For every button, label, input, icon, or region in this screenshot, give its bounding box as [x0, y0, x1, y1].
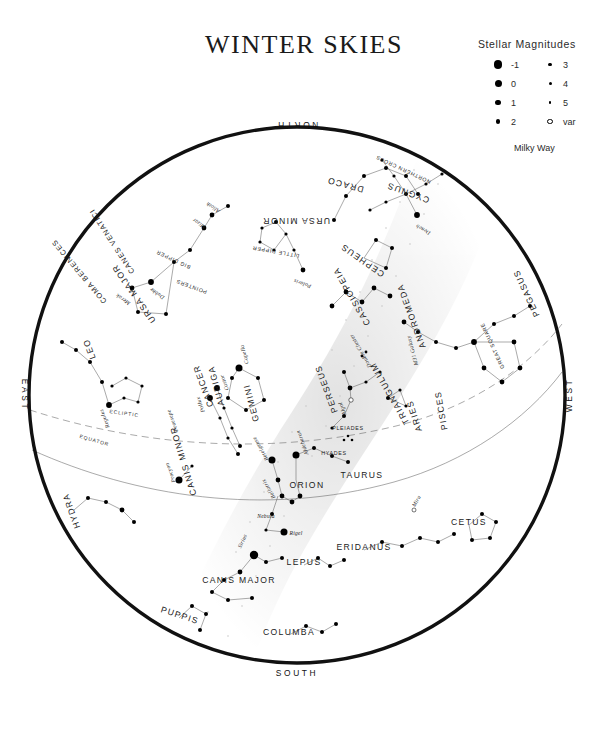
magnitude-dot-icon	[544, 82, 556, 85]
star-label: Capella	[239, 344, 250, 364]
constellation-label: LEPUS	[287, 557, 322, 567]
legend-item-mag-minus1: -1	[492, 59, 544, 70]
star-label: Alioth	[205, 201, 222, 215]
star-label: Rigel	[288, 530, 302, 536]
asterism-label: Nebula	[256, 513, 275, 519]
star-chart: NORTH SOUTH EAST WEST URSA MINOR URSA MA…	[14, 110, 580, 680]
legend-item-mag-1: 1	[492, 97, 544, 108]
magnitude-dot-icon	[492, 100, 504, 106]
legend-item-mag-0: 0	[492, 78, 544, 89]
compass-north: NORTH	[276, 120, 319, 130]
asterism-label: PLEIADES	[332, 425, 364, 431]
constellation-label: URSA MINOR	[262, 216, 330, 226]
constellation-label: TAURUS	[341, 470, 384, 480]
star-label: Betelgeuse	[251, 436, 270, 462]
star-label: Polaris	[293, 278, 313, 290]
magnitude-dot-icon	[492, 80, 504, 87]
compass-west: WEST	[564, 378, 574, 413]
constellation-label: DRACO	[326, 175, 365, 194]
magnitude-dot-icon	[544, 63, 556, 67]
magnitude-dot-icon	[492, 60, 504, 68]
chart-labels: NORTH SOUTH EAST WEST URSA MINOR URSA MA…	[20, 120, 574, 678]
constellation-label: GEMINI	[241, 383, 261, 423]
legend-item-mag-4: 4	[544, 78, 596, 89]
magnitude-dot-icon	[544, 101, 556, 103]
constellation-label: ORION	[290, 480, 325, 490]
constellation-label: CANIS MAJOR	[202, 575, 276, 585]
star-label: Dubhe	[148, 286, 166, 301]
equator-label: EQUATOR	[79, 433, 110, 447]
asterism-label: HYADES	[321, 450, 347, 456]
compass-east: EAST	[20, 379, 30, 411]
legend-label: 5	[563, 98, 568, 108]
compass-south: SOUTH	[276, 668, 318, 678]
star-label: Mira	[410, 494, 422, 508]
constellation-label: ERIDANUS	[336, 542, 391, 552]
constellation-label: PISCES	[433, 390, 450, 431]
legend-item-mag-3: 3	[544, 59, 596, 70]
constellation-label: CETUS	[451, 517, 487, 527]
legend-title: Stellar Magnitudes	[478, 38, 606, 50]
legend-label: -1	[511, 60, 519, 70]
legend-label: 0	[511, 79, 516, 89]
constellation-label: CANES VENATICI	[87, 207, 136, 275]
ecliptic-label: ECLIPTIC	[109, 408, 139, 418]
constellation-label: CANIS MINOR	[168, 425, 199, 497]
star-label: Mizar	[191, 217, 208, 231]
star-label: Procyon	[164, 462, 177, 484]
constellation-label: LEO	[81, 337, 98, 360]
legend-label: 4	[563, 79, 568, 89]
legend-label: 3	[563, 60, 568, 70]
asterism-label: POINTERS	[175, 278, 208, 295]
constellation-label: COLUMBA	[263, 627, 315, 637]
asterism-label: GREAT SQUARE	[479, 322, 506, 370]
legend-item-mag-5: 5	[544, 97, 596, 108]
legend-label: 1	[511, 98, 516, 108]
